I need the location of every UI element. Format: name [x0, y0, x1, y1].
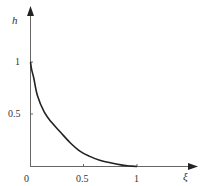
x-axis-arrow-icon — [188, 163, 198, 170]
chart: h ξ 1 0.5 0 0.5 1 — [0, 0, 208, 186]
data-curve — [31, 62, 138, 167]
y-axis-label: h — [12, 14, 18, 26]
x-axis-label: ξ — [183, 170, 188, 183]
y-tick-label-1: 1 — [15, 56, 20, 67]
x-tick-label-0-5: 0.5 — [76, 173, 89, 184]
y-tick-label-0-5: 0.5 — [8, 108, 21, 119]
origin-label: 0 — [24, 173, 29, 184]
y-axis-arrow-icon — [27, 6, 34, 16]
x-tick-label-1: 1 — [134, 173, 139, 184]
